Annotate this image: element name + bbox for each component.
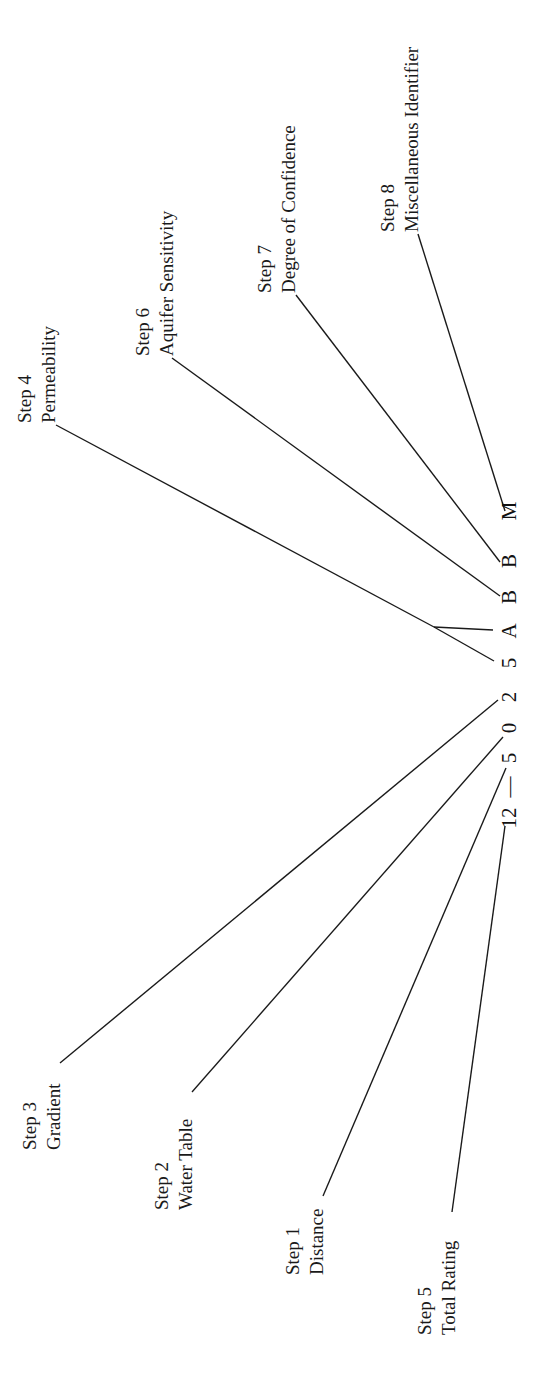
step-7-number: Step 7 — [254, 245, 275, 293]
code-char-degree-of-confidence: B — [497, 554, 521, 568]
label-step-2: Step 2 Water Table — [151, 1119, 196, 1210]
label-step-3: Step 3 Gradient — [19, 1083, 64, 1150]
code-char-distance: 5 — [497, 753, 521, 764]
step-4-name: Permeability — [38, 325, 59, 423]
step-1-name: Distance — [306, 1209, 327, 1275]
label-step-6: Step 6 Aquifer Sensitivity — [132, 210, 177, 356]
step-7-name: Degree of Confidence — [278, 125, 299, 293]
label-step-5: Step 5 Total Rating — [414, 1240, 459, 1335]
step-5-name: Total Rating — [438, 1240, 459, 1335]
leader-line-step-8 — [418, 234, 505, 511]
code-char-aquifer-sensitivity: B — [497, 590, 521, 604]
code-char-water-table: 0 — [497, 723, 521, 734]
leader-line-step-6 — [172, 358, 500, 596]
code-char-gradient: 2 — [497, 692, 521, 703]
code-char-miscellaneous: M — [497, 501, 521, 520]
step-1-number: Step 1 — [282, 1227, 303, 1275]
step-6-number: Step 6 — [132, 308, 153, 356]
leader-line-step-5 — [452, 826, 505, 1212]
leader-line-step-1 — [323, 768, 506, 1196]
step-8-number: Step 8 — [377, 184, 398, 232]
leader-line-step-4 — [56, 425, 434, 627]
step-8-name: Miscellaneous Identifier — [401, 46, 422, 232]
step-6-name: Aquifer Sensitivity — [156, 210, 177, 356]
label-step-1: Step 1 Distance — [282, 1209, 327, 1275]
step-3-name: Gradient — [43, 1083, 64, 1150]
label-step-4: Step 4 Permeability — [14, 325, 59, 423]
code-char-12: 12 — [497, 808, 521, 829]
step-2-number: Step 2 — [151, 1162, 172, 1210]
code-char-permeability-letter: A — [497, 623, 521, 639]
leader-line-step-4-to-5 — [434, 627, 494, 661]
code-char-permeability-number: 5 — [497, 658, 521, 669]
leader-line-step-3 — [60, 700, 498, 1063]
rating-code-diagram: 12 — 5 0 2 5 A B B M Step 8 Miscellaneou… — [0, 0, 558, 1391]
rating-code: 12 — 5 0 2 5 A B B M — [497, 501, 521, 828]
step-5-number: Step 5 — [414, 1287, 435, 1335]
label-step-7: Step 7 Degree of Confidence — [254, 125, 299, 293]
code-dash: — — [497, 776, 521, 799]
label-step-8: Step 8 Miscellaneous Identifier — [377, 46, 422, 232]
step-4-number: Step 4 — [14, 374, 35, 423]
step-2-name: Water Table — [175, 1119, 196, 1210]
step-3-number: Step 3 — [19, 1102, 40, 1150]
leader-line-step-4-to-A — [434, 627, 493, 630]
